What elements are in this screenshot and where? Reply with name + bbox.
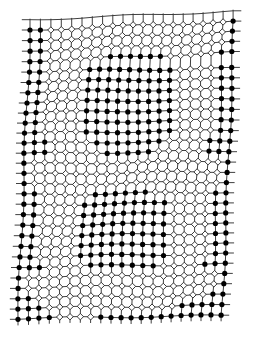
filled-marker-icon — [136, 89, 141, 94]
filled-marker-icon — [132, 200, 137, 205]
filled-marker-icon — [219, 302, 224, 307]
filled-marker-icon — [21, 161, 26, 166]
filled-marker-icon — [167, 78, 172, 83]
filled-marker-icon — [120, 231, 125, 236]
filled-marker-icon — [93, 192, 98, 197]
filled-marker-icon — [32, 191, 37, 196]
filled-marker-icon — [223, 230, 228, 235]
filled-marker-icon — [29, 234, 34, 239]
filled-marker-icon — [32, 140, 37, 145]
filled-marker-icon — [199, 302, 204, 307]
filled-marker-icon — [89, 242, 94, 247]
filled-marker-icon — [108, 315, 113, 320]
filled-marker-icon — [213, 191, 218, 196]
filled-marker-icon — [118, 54, 123, 59]
filled-marker-icon — [223, 200, 228, 205]
filled-marker-icon — [128, 54, 133, 59]
filled-marker-icon — [167, 98, 172, 103]
filled-marker-icon — [99, 242, 104, 247]
filled-marker-icon — [27, 27, 32, 32]
filled-marker-icon — [31, 212, 36, 217]
filled-marker-icon — [218, 128, 223, 133]
filled-marker-icon — [99, 232, 104, 237]
filled-marker-icon — [229, 96, 234, 101]
filled-marker-icon — [23, 121, 28, 126]
filled-marker-icon — [18, 244, 23, 249]
filled-marker-icon — [86, 77, 91, 82]
filled-marker-icon — [151, 263, 156, 268]
filled-marker-icon — [16, 275, 21, 280]
filled-marker-icon — [226, 149, 231, 154]
filled-marker-icon — [146, 109, 151, 114]
filled-marker-icon — [150, 232, 155, 237]
filled-marker-icon — [222, 271, 227, 276]
filled-marker-icon — [136, 130, 141, 135]
filled-marker-icon — [91, 212, 96, 217]
filled-marker-icon — [27, 265, 32, 270]
filled-marker-icon — [156, 88, 161, 93]
filled-marker-icon — [112, 201, 117, 206]
filled-marker-icon — [229, 65, 234, 70]
filled-marker-icon — [84, 119, 89, 124]
filled-marker-icon — [27, 59, 32, 64]
filled-marker-icon — [198, 312, 203, 317]
filled-marker-icon — [217, 138, 222, 143]
filled-marker-icon — [115, 140, 120, 145]
filled-marker-icon — [126, 78, 131, 83]
filled-marker-icon — [102, 202, 107, 207]
filled-marker-icon — [158, 54, 163, 59]
filled-marker-icon — [213, 241, 218, 246]
filled-marker-icon — [130, 263, 135, 268]
filled-marker-icon — [167, 88, 172, 93]
filled-marker-icon — [221, 281, 226, 286]
filled-marker-icon — [213, 251, 218, 256]
filled-marker-icon — [229, 107, 234, 112]
filled-marker-icon — [213, 211, 218, 216]
filled-marker-icon — [138, 54, 143, 59]
filled-marker-icon — [116, 77, 121, 82]
filled-marker-icon — [26, 316, 31, 321]
filled-marker-icon — [109, 252, 114, 257]
filled-marker-icon — [19, 233, 24, 238]
filled-marker-icon — [167, 128, 172, 133]
filled-marker-icon — [22, 131, 27, 136]
filled-marker-icon — [108, 54, 113, 59]
filled-marker-icon — [47, 315, 52, 320]
filled-marker-icon — [189, 313, 194, 318]
filled-marker-icon — [94, 140, 99, 145]
filled-marker-icon — [28, 38, 33, 43]
filled-marker-icon — [111, 211, 116, 216]
filled-marker-icon — [34, 100, 39, 105]
filled-marker-icon — [157, 109, 162, 114]
filled-marker-icon — [136, 120, 141, 125]
filled-marker-icon — [26, 296, 31, 301]
filled-marker-icon — [125, 150, 130, 155]
filled-marker-icon — [96, 77, 101, 82]
filled-marker-icon — [88, 263, 93, 268]
filled-marker-icon — [146, 119, 151, 124]
filled-marker-icon — [125, 109, 130, 114]
filled-marker-icon — [38, 38, 43, 43]
filled-marker-icon — [92, 202, 97, 207]
filled-marker-icon — [219, 65, 224, 70]
filled-marker-icon — [167, 118, 172, 123]
filled-marker-icon — [110, 231, 115, 236]
filled-marker-icon — [169, 314, 174, 319]
filled-marker-icon — [36, 80, 41, 85]
filled-marker-icon — [107, 67, 112, 72]
filled-marker-icon — [140, 242, 145, 247]
filled-marker-icon — [146, 99, 151, 104]
filled-marker-icon — [141, 210, 146, 215]
filled-marker-icon — [42, 140, 47, 145]
filled-marker-icon — [115, 109, 120, 114]
filled-marker-icon — [37, 70, 42, 75]
filled-marker-icon — [125, 99, 130, 104]
filled-marker-icon — [28, 49, 33, 54]
filled-marker-icon — [127, 67, 132, 72]
filled-marker-icon — [179, 303, 184, 308]
filled-marker-icon — [99, 252, 104, 257]
filled-marker-icon — [136, 78, 141, 83]
filled-marker-icon — [227, 139, 232, 144]
filled-marker-icon — [229, 75, 234, 80]
filled-marker-icon — [146, 89, 151, 94]
